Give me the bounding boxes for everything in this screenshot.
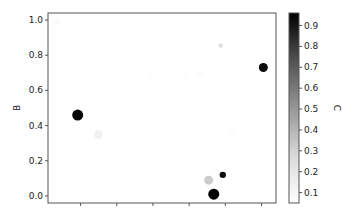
data-point: [94, 130, 103, 139]
data-point: [220, 172, 226, 178]
y-tick-label: 0.2: [29, 156, 43, 166]
colorbar: 0.10.20.30.40.50.60.70.80.9: [289, 13, 319, 203]
y-axis: 0.00.20.40.60.81.0: [29, 15, 48, 201]
data-point: [229, 127, 236, 134]
colorbar-tick-label: 0.6: [304, 83, 319, 93]
data-point: [218, 43, 222, 47]
colorbar-tick-label: 0.2: [304, 167, 318, 177]
y-tick-label: 0.4: [29, 121, 44, 131]
colorbar-label: C: [332, 105, 342, 111]
colorbar-gradient: [289, 13, 299, 203]
data-point: [54, 17, 61, 24]
scatter-chart: 0.00.20.40.60.81.0 B 0.10.20.30.40.50.60…: [0, 0, 342, 214]
y-tick-label: 0.0: [29, 191, 44, 201]
data-point: [197, 69, 204, 76]
data-point: [208, 189, 219, 200]
colorbar-tick-label: 0.9: [304, 21, 319, 31]
data-point: [72, 110, 83, 121]
colorbar-tick-label: 0.3: [304, 146, 318, 156]
data-point: [181, 73, 187, 79]
colorbar-tick-label: 0.7: [304, 62, 318, 72]
y-axis-label: B: [12, 105, 22, 111]
colorbar-tick-label: 0.4: [304, 125, 319, 135]
data-point: [204, 176, 213, 185]
plot-area: [48, 13, 276, 203]
colorbar-tick-label: 0.5: [304, 104, 318, 114]
colorbar-tick-label: 0.1: [304, 188, 318, 198]
y-tick-label: 0.6: [29, 85, 44, 95]
y-tick-label: 1.0: [29, 15, 44, 25]
data-point: [146, 73, 152, 79]
plot-frame: [48, 13, 276, 203]
colorbar-tick-label: 0.8: [304, 41, 319, 51]
y-tick-label: 0.8: [29, 50, 44, 60]
data-point: [259, 63, 268, 72]
